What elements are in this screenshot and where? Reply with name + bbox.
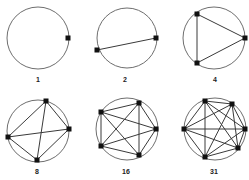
circle-outline — [96, 98, 158, 160]
vertex-point — [203, 155, 208, 160]
panel-8: 8 — [6, 99, 72, 176]
circle-outline — [97, 8, 157, 68]
chord — [8, 129, 69, 137]
chord — [46, 101, 69, 129]
chord — [37, 101, 46, 160]
chord — [97, 38, 156, 50]
panel-16: 16 — [96, 98, 159, 175]
chord — [8, 101, 46, 137]
vertex-point — [243, 127, 248, 132]
circle-outline — [183, 7, 245, 69]
panel-4: 4 — [183, 7, 248, 83]
vertex-point — [203, 99, 208, 104]
vertex-point — [95, 48, 100, 53]
vertex-point — [154, 36, 159, 41]
vertex-point — [195, 61, 200, 66]
region-count-label: 16 — [122, 168, 130, 175]
vertex-point — [137, 101, 142, 106]
vertex-point — [230, 102, 235, 107]
chord — [101, 103, 139, 112]
panel-2: 2 — [95, 8, 159, 83]
region-count-label: 4 — [213, 76, 217, 83]
chord — [184, 104, 232, 129]
vertex-point — [67, 127, 72, 132]
vertex-point — [66, 36, 71, 41]
vertex-point — [154, 127, 159, 132]
circle-division-figure: 12481631 — [0, 0, 249, 180]
chord — [197, 38, 245, 63]
chord — [139, 129, 156, 155]
vertex-point — [44, 99, 49, 104]
region-count-label: 2 — [123, 76, 127, 83]
panel-1: 1 — [7, 7, 71, 83]
region-count-label: 8 — [35, 168, 39, 175]
vertex-point — [182, 127, 187, 132]
vertex-point — [243, 36, 248, 41]
vertex-point — [236, 146, 241, 151]
chord — [205, 148, 238, 157]
vertex-point — [99, 144, 104, 149]
region-count-label: 1 — [36, 76, 40, 83]
panel-31: 31 — [182, 98, 248, 175]
vertex-point — [6, 135, 11, 140]
chord — [205, 104, 232, 157]
chord — [101, 146, 139, 155]
chord — [101, 103, 139, 146]
vertex-point — [35, 158, 40, 163]
vertex-point — [195, 12, 200, 17]
circle-outline — [7, 7, 69, 69]
chord — [139, 103, 156, 129]
chord — [101, 112, 139, 155]
chord — [37, 129, 69, 160]
region-count-label: 31 — [210, 168, 218, 175]
vertex-point — [99, 110, 104, 115]
vertex-point — [137, 153, 142, 158]
